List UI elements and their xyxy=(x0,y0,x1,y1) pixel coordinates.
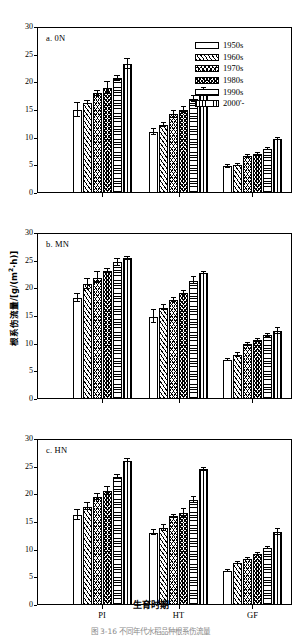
y-tick-label: 10 xyxy=(15,546,33,554)
error-bar-cap xyxy=(74,509,79,510)
y-tick-label: 0 xyxy=(15,189,33,197)
error-bar-cap xyxy=(74,301,79,302)
bar-c-HT-1960s xyxy=(159,528,168,605)
panel-label-b: b. MN xyxy=(46,239,69,249)
panel-a: a. 0N0510152025301950s1960s1970s1980s199… xyxy=(37,27,292,193)
bar-b-GF-2000'- xyxy=(273,331,282,399)
bar-b-GF-1980s xyxy=(253,340,262,399)
error-bar-cap xyxy=(124,58,129,59)
error-bar-cap xyxy=(235,352,240,353)
y-tick-label: 15 xyxy=(15,312,33,320)
error-bar-cap xyxy=(235,165,240,166)
error-bar-cap xyxy=(201,467,206,468)
y-tick-mark xyxy=(34,467,38,468)
y-tick-label: 20 xyxy=(15,284,33,292)
error-bar-cap xyxy=(114,80,119,81)
error-bar-cap xyxy=(275,528,280,529)
error-bar-cap xyxy=(104,494,109,495)
error-bar-cap xyxy=(74,519,79,520)
y-tick-mark xyxy=(34,550,38,551)
panel-label-c: c. HN xyxy=(46,445,67,455)
bar-b-GF-1990s xyxy=(263,335,272,399)
error-bar-cap xyxy=(225,571,230,572)
error-bar-cap xyxy=(114,478,119,479)
error-bar-cap xyxy=(104,486,109,487)
y-tick-label: 20 xyxy=(15,78,33,86)
error-bar-cap xyxy=(201,273,206,274)
legend-swatch-1980s xyxy=(195,77,219,84)
bar-c-HT-2000'- xyxy=(199,469,208,605)
error-bar-cap xyxy=(235,563,240,564)
error-bar-cap xyxy=(151,529,156,530)
error-bar-cap xyxy=(181,112,186,113)
error-bar-cap xyxy=(151,322,156,323)
y-tick-label: 5 xyxy=(15,573,33,581)
y-tick-mark xyxy=(34,193,38,194)
error-bar-cap xyxy=(161,309,166,310)
bar-b-GF-1960s xyxy=(233,355,242,399)
error-bar-cap xyxy=(275,333,280,334)
legend-item-2000'-: 2000'- xyxy=(195,98,244,110)
y-tick-mark xyxy=(34,165,38,166)
bar-a-GF-1990s xyxy=(263,149,272,193)
bar-c-HT-1950s xyxy=(149,533,158,605)
x-tick-label-PI: PI xyxy=(82,610,122,620)
error-bar-cap xyxy=(191,502,196,503)
error-bar-cap xyxy=(114,474,119,475)
bar-a-PI-1970s xyxy=(93,93,102,193)
error-bar-cap xyxy=(84,103,89,104)
error-bar-cap xyxy=(84,100,89,101)
bar-a-HT-1990s xyxy=(189,99,198,193)
bar-b-PI-1960s xyxy=(83,284,92,399)
error-bar-cap xyxy=(275,534,280,535)
legend-item-1960s: 1960s xyxy=(195,52,244,64)
error-bar-cap xyxy=(275,137,280,138)
error-bar-cap xyxy=(104,272,109,273)
y-tick-mark xyxy=(34,110,38,111)
error-bar-cap xyxy=(245,557,250,558)
error-bar-cap xyxy=(255,152,260,153)
bar-b-PI-1970s xyxy=(93,278,102,399)
error-bar-cap xyxy=(171,117,176,118)
bar-a-PI-1950s xyxy=(73,110,82,193)
error-bar-cap xyxy=(171,514,176,515)
legend-swatch-2000'- xyxy=(195,100,219,107)
bar-c-PI-1970s xyxy=(93,497,102,605)
error-bar-cap xyxy=(181,517,186,518)
error-bar-cap xyxy=(94,282,99,283)
error-bar-cap xyxy=(151,534,156,535)
legend-item-1970s: 1970s xyxy=(195,63,244,75)
y-tick-label: 25 xyxy=(15,257,33,265)
error-bar-cap xyxy=(151,128,156,129)
x-tick-mark xyxy=(252,399,253,403)
bar-c-GF-2000'- xyxy=(273,532,282,605)
legend-swatch-1970s xyxy=(195,65,219,72)
panel-c: c. HN051015202530PIHTGF xyxy=(37,439,292,605)
legend-label-2000'-: 2000'- xyxy=(223,99,244,108)
legend-item-1950s: 1950s xyxy=(195,40,244,52)
y-axis-label: 根系伤流量/[g/(m2·h)] xyxy=(6,218,19,378)
error-bar-cap xyxy=(124,458,129,459)
bar-a-PI-1960s xyxy=(83,103,92,193)
legend-item-1990s: 1990s xyxy=(195,86,244,98)
figure-caption: 图 3-16 不同年代水稻品种根系伤流量 xyxy=(0,625,301,636)
y-tick-label: 5 xyxy=(15,367,33,375)
bar-c-GF-1990s xyxy=(263,548,272,605)
error-bar-cap xyxy=(124,461,129,462)
bar-c-PI-1950s xyxy=(73,515,82,605)
error-bar-cap xyxy=(74,293,79,294)
error-bar-cap xyxy=(245,559,250,560)
y-tick-mark xyxy=(34,494,38,495)
error-bar-cap xyxy=(255,341,260,342)
y-tick-label: 25 xyxy=(15,51,33,59)
error-bar-cap xyxy=(171,517,176,518)
error-bar-cap xyxy=(161,530,166,531)
bar-b-HT-1980s xyxy=(179,293,188,399)
error-bar-cap xyxy=(151,309,156,310)
y-tick-label: 10 xyxy=(15,134,33,142)
bar-a-HT-1960s xyxy=(159,125,168,193)
error-bar-cap xyxy=(161,524,166,525)
bar-b-PI-1950s xyxy=(73,298,82,399)
error-bar-cap xyxy=(225,167,230,168)
legend-item-1980s: 1980s xyxy=(195,75,244,87)
